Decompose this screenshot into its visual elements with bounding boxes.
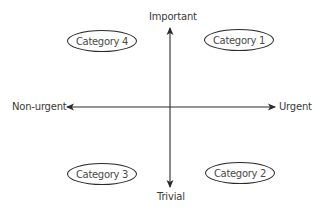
category-3-ellipse: Category 3 <box>67 163 137 185</box>
axis-label-trivial: Trivial <box>157 191 185 203</box>
axis-label-non-urgent: Non-urgent <box>12 101 67 113</box>
category-1-ellipse: Category 1 <box>204 29 274 51</box>
axis-label-urgent: Urgent <box>279 101 312 113</box>
priority-matrix-diagram: Important Trivial Non-urgent Urgent Cate… <box>0 0 321 212</box>
category-4-ellipse: Category 4 <box>67 30 137 52</box>
category-4-label: Category 4 <box>76 36 128 47</box>
axis-label-important: Important <box>149 11 197 23</box>
category-3-label: Category 3 <box>76 169 128 180</box>
category-1-label: Category 1 <box>213 35 265 46</box>
category-2-ellipse: Category 2 <box>205 162 275 184</box>
category-2-label: Category 2 <box>214 168 266 179</box>
